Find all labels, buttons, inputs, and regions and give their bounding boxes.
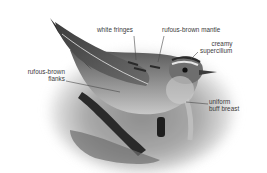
label-flanks-line1: rufous-brown	[17, 68, 65, 75]
label-supercilium: creamy supercilium	[200, 40, 232, 54]
bird-illustration	[0, 0, 267, 173]
label-white-fringes: white fringes	[97, 26, 133, 33]
label-breast-line2: buff breast	[209, 105, 239, 112]
bird-eye	[182, 67, 187, 72]
label-flanks: rufous-brown flanks	[17, 68, 65, 82]
label-mantle: rufous-brown mantle	[162, 26, 220, 33]
label-breast-line1: uniform	[209, 98, 239, 105]
label-supercilium-line1: creamy	[200, 40, 232, 47]
label-flanks-line2: flanks	[17, 75, 65, 82]
label-breast: uniform buff breast	[209, 98, 239, 112]
leg	[157, 117, 165, 137]
breast	[166, 76, 194, 104]
label-supercilium-line2: supercilium	[200, 47, 232, 54]
annotated-bird-figure: white fringes rufous-brown mantle creamy…	[0, 0, 267, 173]
